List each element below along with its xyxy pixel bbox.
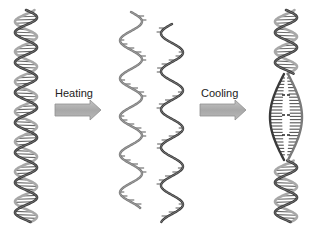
cooling-arrow-icon [200,100,246,120]
dna-diagram [0,0,314,231]
double-helix [15,10,37,222]
reannealed-helix [270,10,302,222]
single-strand-dark [157,24,183,222]
single-strand-light [120,12,146,208]
heating-arrow-icon [55,100,101,120]
heating-label: Heating [55,87,93,99]
cooling-label: Cooling [201,87,238,99]
